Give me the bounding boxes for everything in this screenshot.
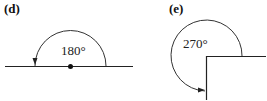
vertex-dot bbox=[68, 64, 73, 69]
arrowhead-icon bbox=[33, 58, 38, 65]
panel-e-270-angle: 270° bbox=[171, 20, 266, 100]
angle-diagrams: 180° 270° bbox=[0, 0, 266, 100]
panel-d-180-angle: 180° bbox=[5, 31, 133, 70]
corner-lines bbox=[207, 57, 267, 101]
arrowhead-icon bbox=[198, 88, 205, 93]
angle-270-text: 270° bbox=[183, 36, 208, 51]
angle-180-text: 180° bbox=[61, 43, 86, 58]
